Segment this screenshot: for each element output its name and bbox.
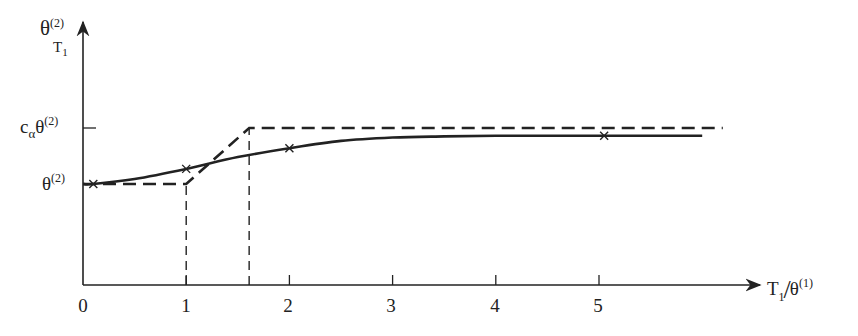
x-tick-label: 5 bbox=[593, 296, 603, 315]
x-tick-label: 0 bbox=[78, 296, 88, 315]
y-axis-label-sub: T bbox=[53, 39, 62, 55]
x-axis-label-main: T bbox=[767, 278, 779, 299]
y-axis-label-sub-sub: 1 bbox=[62, 46, 68, 58]
x-tick-label: 4 bbox=[490, 296, 500, 315]
y-axis-label-main: θ bbox=[40, 16, 50, 40]
y-tick-sup: (2) bbox=[51, 171, 65, 185]
y-axis-label-subscript: T1 bbox=[53, 40, 68, 55]
y-tick-main: θ bbox=[35, 116, 44, 137]
y-axis-label-sup: (2) bbox=[50, 16, 64, 30]
x-tick-label: 3 bbox=[386, 296, 396, 315]
chart-canvas bbox=[0, 0, 858, 336]
series-group bbox=[83, 128, 723, 188]
x-axis-label-denom: θ bbox=[790, 278, 799, 299]
y-tick-label-calpha: cαθ(2) bbox=[20, 117, 58, 136]
y-tick-sup: (2) bbox=[44, 114, 58, 128]
y-tick-prefix-sub: α bbox=[28, 126, 35, 141]
x-axis-label-slash: / bbox=[784, 275, 791, 304]
y-axis-label: θ(2) T1 bbox=[40, 18, 64, 39]
x-tick-label: 1 bbox=[181, 296, 191, 315]
y-tick-main: θ bbox=[42, 173, 51, 194]
x-tick-label: 2 bbox=[283, 296, 293, 315]
axes bbox=[83, 22, 760, 285]
x-axis-label: T1/θ(1) bbox=[767, 274, 813, 300]
x-axis-label-denom-sup: (1) bbox=[799, 276, 813, 290]
y-tick-label-theta: θ(2) bbox=[42, 174, 65, 193]
solid-curve bbox=[83, 136, 702, 185]
guide-lines bbox=[186, 128, 249, 285]
